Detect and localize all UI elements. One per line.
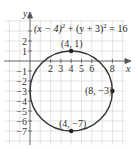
y-axis-arrow-icon <box>28 12 33 18</box>
point-label-4-neg7: (4, −7) <box>59 118 86 130</box>
point-4-neg7 <box>69 129 73 133</box>
point-label-4-1: (4, 1) <box>61 38 83 50</box>
svg-text:8: 8 <box>110 63 115 74</box>
circle-graph: y x 2 3 4 5 6 8 2 1 −1 −2 −3 −4 −5 −6 −7… <box>0 0 139 149</box>
point-label-8-neg3: (8, −3) <box>85 85 112 97</box>
svg-text:1: 1 <box>22 46 27 57</box>
svg-text:2: 2 <box>48 63 53 74</box>
x-axis-label: x <box>125 63 131 74</box>
svg-text:6: 6 <box>89 63 94 74</box>
y-axis-label: y <box>22 8 28 19</box>
equation-label: (x − 4)2 + (y + 3)2 = 16 <box>34 22 127 35</box>
svg-text:−7: −7 <box>16 126 27 137</box>
svg-text:5: 5 <box>79 63 84 74</box>
point-4-1 <box>69 49 73 53</box>
svg-text:3: 3 <box>58 63 63 74</box>
svg-text:4: 4 <box>69 63 74 74</box>
